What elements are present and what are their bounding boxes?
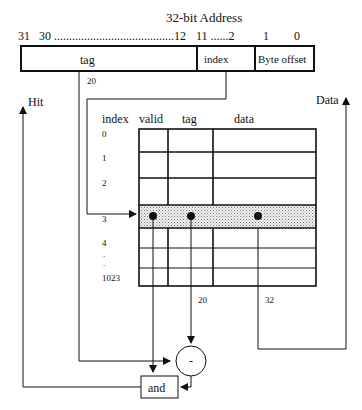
cache-table [139,129,316,286]
bit-label-1: 1 [263,29,269,43]
header-index: index [102,112,129,126]
and-label: and [148,381,165,395]
row-label-0: 0 [102,129,107,139]
row-label-3: 3 [102,214,107,224]
row-label-1: 1 [102,153,107,163]
index-wire [87,71,226,214]
bit-label-30-12: 30 .....................................… [39,29,186,43]
data-width: 32 [265,295,274,305]
hit-label: Hit [28,95,44,109]
field-tag: tag [80,53,95,67]
row-label-ellipsis-2: . [103,258,105,268]
hit-wire [23,107,141,387]
tag-compare-width: 20 [198,295,208,305]
bit-label-0: 0 [294,29,300,43]
header-data: data [234,112,255,126]
row-label-2: 2 [102,178,107,188]
tag-width-label: 20 [87,76,97,86]
field-byte-offset: Byte offset [258,53,306,65]
and-gate: and [141,376,178,398]
bit-label-31: 31 [18,29,30,43]
compare-result-wire [181,376,191,387]
comparator-symbol: - [189,354,193,368]
data-label: Data [316,93,339,107]
cache-diagram: 32-bit Address 31 30 ...................… [0,0,362,410]
header-valid: valid [139,112,163,126]
header-tag: tag [182,112,197,126]
address-register: tag index Byte offset [21,46,314,71]
comparator: - [176,346,206,376]
bit-label-11-2: 11 ......2 [196,29,235,43]
row-label-1023: 1023 [102,273,121,283]
field-index: index [204,53,229,65]
row-label-4: 4 [102,238,107,248]
selected-row-3 [139,205,316,228]
diagram-title: 32-bit Address [166,10,242,25]
